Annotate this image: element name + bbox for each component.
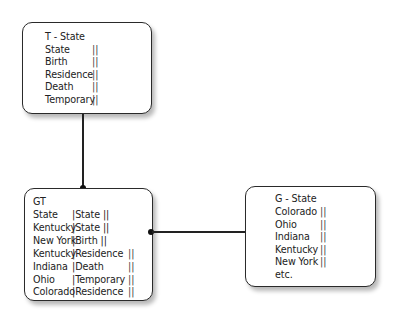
connector-t-state-to-gt bbox=[82, 114, 84, 188]
gt-row-col2: |State || bbox=[72, 222, 109, 234]
g-state-row-bars: || bbox=[320, 244, 326, 256]
g-state-row-bars: || bbox=[320, 256, 326, 268]
t-state-row-label: State bbox=[45, 44, 70, 56]
gt-row-col1: Indiana bbox=[33, 261, 68, 273]
gt-row-col2: |Death bbox=[72, 261, 104, 273]
gt-row-col2: |Temporary bbox=[72, 274, 125, 286]
gt-title: GT bbox=[33, 196, 46, 208]
gt-row-col2: |State || bbox=[72, 209, 109, 221]
gt-row-col1: Kentucky bbox=[33, 222, 76, 234]
g-state-row-label: Colorado bbox=[275, 206, 317, 218]
gt-row-col1: New York bbox=[33, 235, 76, 247]
gt-row-col2: |Birth || bbox=[72, 235, 107, 247]
t-state-row-label: Birth bbox=[45, 56, 68, 68]
g-state-row-bars: || bbox=[320, 219, 326, 231]
gt-row-col2: |Residence bbox=[72, 286, 123, 298]
connector-gt-to-g-state bbox=[152, 231, 245, 233]
t-state-row-bars: || bbox=[92, 69, 98, 81]
gt-row-bars: || bbox=[128, 261, 134, 273]
gt-row-col1: Kentucky bbox=[33, 248, 76, 260]
gt-row-col1: State bbox=[33, 209, 58, 221]
g-state-row-label: New York bbox=[275, 256, 318, 268]
t-state-row-label: Temporary bbox=[45, 94, 95, 106]
g-state-row-label: etc. bbox=[275, 269, 293, 281]
gt-row-col1: Colorado bbox=[33, 286, 75, 298]
g-state-row-label: Kentucky bbox=[275, 244, 318, 256]
gt-row-col1: Ohio bbox=[33, 274, 55, 286]
g-state-row-label: Ohio bbox=[275, 219, 297, 231]
t-state-title: T - State bbox=[45, 31, 85, 43]
g-state-row-bars: || bbox=[320, 231, 326, 243]
gt-row-bars: || bbox=[128, 274, 134, 286]
g-state-row-bars: || bbox=[320, 206, 326, 218]
t-state-row-bars: || bbox=[92, 81, 98, 93]
gt-row-bars: || bbox=[128, 248, 134, 260]
t-state-row-label: Residence bbox=[45, 69, 93, 81]
g-state-title: G - State bbox=[275, 193, 317, 205]
g-state-row-label: Indiana bbox=[275, 231, 310, 243]
t-state-row-bars: || bbox=[92, 44, 98, 56]
t-state-row-label: Death bbox=[45, 81, 74, 93]
t-state-row-bars: || bbox=[92, 94, 98, 106]
t-state-row-bars: || bbox=[92, 56, 98, 68]
gt-row-col2: |Residence bbox=[72, 248, 123, 260]
gt-row-bars: || bbox=[128, 286, 134, 298]
